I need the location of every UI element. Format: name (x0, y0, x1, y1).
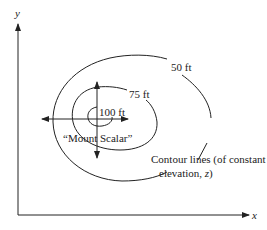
contour-75ft-label: 75 ft (129, 88, 149, 100)
x-axis-label: x (251, 209, 257, 221)
peak-label: “Mount Scalar” (63, 132, 132, 144)
annotation-line-1: Contour lines (of constant (151, 153, 266, 166)
y-axis-label: y (14, 7, 20, 19)
contour-100ft-label: 100 ft (99, 106, 125, 118)
annotation-line-2: elevation, z) (159, 167, 213, 180)
contour-50ft-label: 50 ft (171, 61, 191, 73)
contour-diagram: y x 50 ft 75 ft 100 ft “Mount Scalar” Co… (0, 0, 267, 230)
axes: y x (14, 7, 257, 221)
